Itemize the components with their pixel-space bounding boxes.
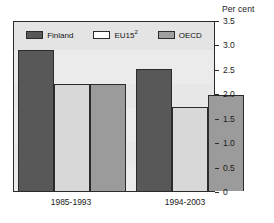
finland-swatch-icon — [26, 31, 43, 39]
y-tick-label: 0.5 — [223, 164, 235, 173]
y-tick-mark — [215, 45, 219, 46]
y-tick-mark — [215, 192, 219, 193]
y-tick-label: 2.0 — [223, 90, 235, 99]
legend-label-eu15: EU152 — [114, 31, 137, 40]
oecd-swatch-icon — [158, 31, 175, 39]
legend-item-finland: Finland — [26, 31, 73, 40]
eu15-swatch-icon — [93, 31, 110, 39]
y-tick-label: 0 — [223, 188, 228, 197]
y-tick-mark — [215, 119, 219, 120]
legend-item-eu15: EU152 — [93, 31, 137, 40]
y-tick-mark — [215, 143, 219, 144]
y-tick-label: 2.5 — [223, 66, 235, 75]
y-tick-label: 1.0 — [223, 139, 235, 148]
x-category-label-1994-2003: 1994-2003 — [165, 197, 206, 207]
chart-figure: Per cent Finland EU152 OECD — [0, 0, 274, 223]
bar-eu15-1994-2003 — [172, 107, 208, 191]
legend-label-oecd: OECD — [179, 31, 202, 40]
y-tick-label: 3.0 — [223, 41, 235, 50]
y-tick-mark — [215, 21, 219, 22]
x-category-label-1985-1993: 1985-1993 — [51, 197, 92, 207]
bar-oecd-1985-1993 — [90, 84, 126, 191]
plot-area: Finland EU152 OECD — [13, 21, 215, 192]
bar-eu15-1985-1993 — [54, 84, 90, 191]
bar-finland-1994-2003 — [136, 69, 172, 191]
y-tick-label: 3.5 — [223, 17, 235, 26]
y-tick-mark — [215, 168, 219, 169]
chart-legend: Finland EU152 OECD — [14, 27, 214, 43]
y-tick-mark — [215, 70, 219, 71]
y-axis-unit-label: Per cent — [222, 4, 254, 14]
y-tick-label: 1.5 — [223, 115, 235, 124]
legend-label-finland: Finland — [47, 31, 73, 40]
legend-item-oecd: OECD — [158, 31, 202, 40]
y-tick-mark — [215, 94, 219, 95]
bar-finland-1985-1993 — [18, 50, 54, 191]
